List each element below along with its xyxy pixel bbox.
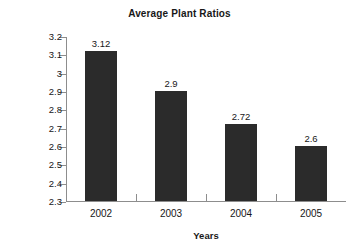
plot-area: 3.23.132.92.82.72.62.52.42.3 3.1220022.9… [66, 37, 346, 202]
y-tick-label: 2.5 [49, 158, 62, 171]
y-tick-label: 2.4 [49, 177, 62, 190]
bar-value-label: 2.72 [232, 111, 251, 122]
x-tick-label: 2005 [300, 208, 322, 220]
bar-chart: Average Plant Ratios Water Use Ratio lit… [0, 0, 359, 250]
bar: 3.122002 [85, 51, 117, 201]
x-tick-mark [206, 194, 207, 201]
y-tick-label: 3 [57, 67, 62, 80]
y-axis-line [66, 37, 67, 202]
y-tick-label: 2.3 [49, 195, 62, 208]
bar-value-label: 2.9 [164, 78, 177, 89]
y-tick-label: 2.6 [49, 140, 62, 153]
bar-value-label: 2.6 [304, 133, 317, 144]
y-tick-label: 2.9 [49, 85, 62, 98]
x-tick-mark [276, 194, 277, 201]
bar-value-label: 3.12 [92, 38, 111, 49]
x-tick-mark [136, 194, 137, 201]
chart-title: Average Plant Ratios [0, 8, 359, 19]
y-tick-label: 3.1 [49, 48, 62, 61]
y-tick-label: 3.2 [49, 30, 62, 43]
bar: 2.92003 [155, 91, 187, 201]
y-tick-label: 2.8 [49, 103, 62, 116]
x-tick-label: 2002 [90, 208, 112, 220]
y-tick-label: 2.7 [49, 122, 62, 135]
x-tick-label: 2003 [160, 208, 182, 220]
x-tick-label: 2004 [230, 208, 252, 220]
bar: 2.722004 [225, 124, 257, 201]
bar: 2.62005 [295, 146, 327, 201]
x-axis-title: Years [66, 230, 346, 241]
